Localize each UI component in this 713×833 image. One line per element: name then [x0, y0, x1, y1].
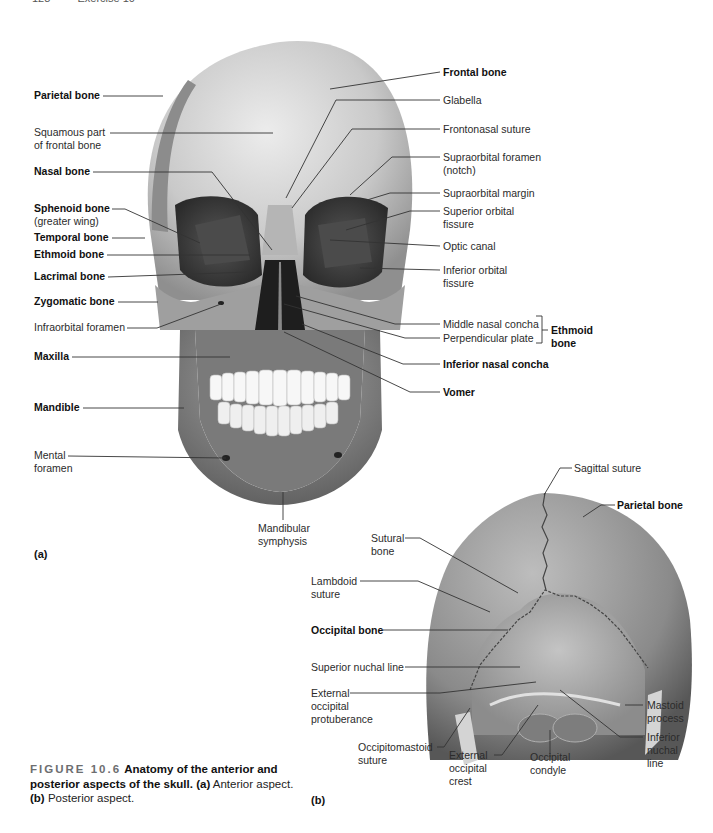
label-frontonasal-suture: Frontonasal suture — [443, 123, 531, 136]
label-ethmoid-bone: Ethmoid bone — [34, 248, 104, 261]
label-parietal-bone: Parietal bone — [34, 89, 100, 102]
label-middle-nasal-concha: Middle nasal concha — [443, 318, 539, 331]
label-frontal-bone: Frontal bone — [443, 66, 507, 79]
panel-a-marker: (a) — [34, 548, 47, 560]
label-superior-nuchal-line: Superior nuchal line — [311, 661, 404, 674]
anterior-skull — [148, 41, 412, 505]
label-zygomatic-bone: Zygomatic bone — [34, 295, 115, 308]
label-maxilla: Maxilla — [34, 350, 69, 363]
textbook-page: 128 Exercise 10 — [0, 0, 713, 833]
label-perpendicular-plate: Perpendicular plate — [443, 332, 533, 345]
label-mental-foramen: Mental foramen — [34, 449, 73, 475]
label-sutural-bone: Sutural bone — [371, 532, 404, 558]
label-lambdoid-suture: Lambdoid suture — [311, 575, 357, 601]
caption-a-marker: (a) — [196, 778, 210, 790]
label-occipitomastoid-suture: Occipitomastoid suture — [358, 741, 433, 767]
caption-b-text: Posterior aspect. — [48, 792, 134, 804]
label-mastoid-process: Mastoid process — [647, 699, 684, 725]
label-parietal-bone-posterior: Parietal bone — [617, 499, 683, 512]
label-infraorbital-foramen: Infraorbital foramen — [34, 321, 125, 334]
label-mandibular-symphysis: Mandibular symphysis — [258, 522, 310, 548]
caption-b-marker: (b) — [30, 792, 45, 804]
label-external-occipital-protuberance: External occipital protuberance — [311, 687, 373, 726]
label-lacrimal-bone: Lacrimal bone — [34, 270, 105, 283]
label-squamous-frontal: Squamous part of frontal bone — [34, 126, 105, 152]
label-inferior-nuchal-line: Inferior nuchal line — [647, 731, 680, 770]
label-superior-orbital-fissure: Superior orbital fissure — [443, 205, 514, 231]
label-temporal-bone: Temporal bone — [34, 231, 108, 244]
label-supraorbital-margin: Supraorbital margin — [443, 187, 535, 200]
label-supraorbital-foramen: Supraorbital foramen (notch) — [443, 151, 541, 177]
figure-caption: FIGURE 10.6 Anatomy of the anterior and … — [30, 762, 300, 806]
figure-number: FIGURE 10.6 — [30, 763, 121, 775]
label-inferior-nasal-concha: Inferior nasal concha — [443, 358, 549, 371]
label-sphenoid-bone: Sphenoid bone (greater wing) — [34, 202, 110, 228]
label-occipital-condyle: Occipital condyle — [530, 751, 570, 777]
label-inferior-orbital-fissure: Inferior orbital fissure — [443, 264, 507, 290]
label-sagittal-suture: Sagittal suture — [574, 462, 641, 475]
label-occipital-bone: Occipital bone — [311, 624, 383, 637]
label-external-occipital-crest: External occipital crest — [449, 749, 488, 788]
label-vomer: Vomer — [443, 386, 475, 399]
panel-b-marker: (b) — [311, 794, 325, 806]
label-glabella: Glabella — [443, 94, 482, 107]
label-nasal-bone: Nasal bone — [34, 165, 90, 178]
label-mandible: Mandible — [34, 401, 80, 414]
caption-a-text: Anterior aspect. — [213, 778, 294, 790]
label-optic-canal: Optic canal — [443, 240, 496, 253]
label-ethmoid-bone-bracket: Ethmoid bone — [551, 324, 593, 350]
